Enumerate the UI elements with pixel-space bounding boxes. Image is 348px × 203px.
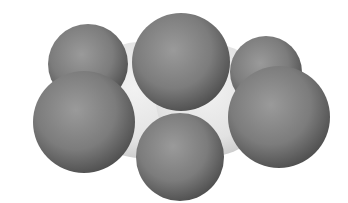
atom-sphere-dark-front-right [228,66,330,168]
atom-sphere-dark-top [132,13,230,111]
atom-sphere-dark-front-left [33,71,135,173]
atom-sphere-dark-bottom [136,113,224,201]
molecule-model [0,0,348,203]
